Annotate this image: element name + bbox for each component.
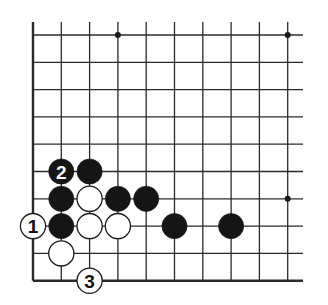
- white-stone: [77, 186, 102, 211]
- white-stone: [77, 214, 102, 239]
- black-stone: [162, 214, 187, 239]
- star-point: [285, 196, 291, 202]
- black-stone: [49, 214, 74, 239]
- white-stone-move-3: 3: [77, 268, 102, 293]
- black-stone: [105, 186, 130, 211]
- black-stone: [219, 214, 244, 239]
- black-stone: [49, 186, 74, 211]
- white-stone-move-1: 1: [20, 214, 45, 239]
- move-number-label: 1: [28, 216, 39, 237]
- black-stone-move-2: 2: [49, 159, 74, 184]
- black-stone: [77, 159, 102, 184]
- move-number-label: 2: [56, 162, 67, 183]
- white-stone: [105, 214, 130, 239]
- star-point: [285, 32, 291, 38]
- go-board: 213: [0, 0, 328, 305]
- star-point: [115, 32, 121, 38]
- white-stone: [49, 241, 74, 266]
- board-grid: [33, 22, 303, 281]
- black-stone: [134, 186, 159, 211]
- move-number-label: 3: [84, 271, 95, 292]
